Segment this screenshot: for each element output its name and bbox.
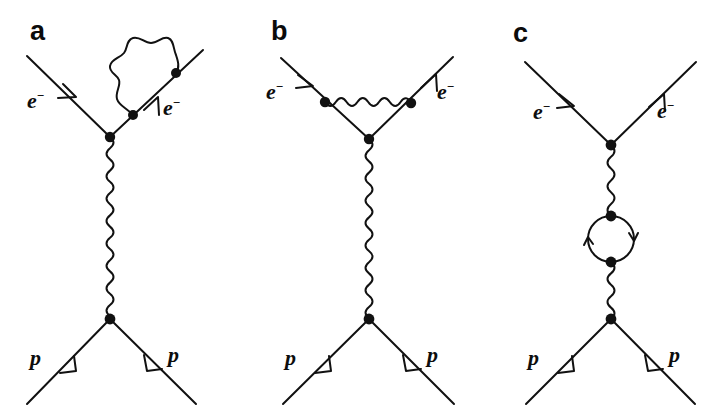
label-e-charge-c: − (543, 99, 550, 114)
incoming-electron-arrow-b (296, 75, 313, 88)
label-outgoing-electron-b: e− (437, 80, 454, 103)
label-outgoing-proton-b: p (427, 344, 438, 366)
panel-c: c (481, 0, 722, 419)
vertex-loop-top-c (606, 211, 617, 222)
outgoing-proton-line-a (110, 319, 196, 404)
vertex-photon-left-b (320, 97, 330, 107)
outgoing-proton-line-b (369, 319, 454, 404)
label-incoming-electron-b: e− (266, 80, 283, 103)
outgoing-proton-arrow-a (144, 355, 162, 371)
label-outgoing-proton-c: p (669, 344, 680, 366)
feynman-diagram-c (481, 0, 722, 419)
figure-canvas: a e− e− (0, 0, 722, 419)
outgoing-electron-arrow-a (144, 97, 159, 115)
exchanged-photon-a (107, 137, 114, 316)
label-e-out-text-b: e (437, 79, 447, 104)
panel-a: a e− e− (0, 0, 241, 419)
label-e-charge-a: − (37, 88, 44, 103)
label-e-text-b: e (266, 79, 276, 104)
outgoing-electron-arrow-b (421, 74, 437, 91)
label-incoming-proton-a: p (30, 347, 41, 369)
lower-photon-c (608, 262, 615, 319)
label-outgoing-proton-a: p (168, 344, 179, 366)
label-e-out-charge-a: − (173, 95, 180, 110)
label-e-out-text-c: e (657, 98, 667, 123)
vertex-electron-photon-b (364, 134, 374, 144)
vertex-correction-photon-b (325, 98, 411, 106)
label-incoming-electron-a: e− (27, 89, 44, 112)
vertex-electron-photon-a (105, 132, 115, 142)
vertex-proton-photon-c (606, 314, 617, 325)
label-e-out-charge-b: − (447, 79, 454, 94)
vertex-photon-right-b (406, 98, 416, 108)
feynman-diagram-b (241, 0, 482, 419)
label-e-out-charge-c: − (667, 98, 674, 113)
vertex-electron-photon-c (606, 140, 617, 151)
label-incoming-electron-c: e− (533, 100, 550, 123)
exchanged-photon-b (366, 139, 373, 318)
vertex-self-energy-upper-a (171, 68, 181, 78)
label-e-charge-b: − (276, 79, 283, 94)
label-outgoing-electron-c: e− (657, 99, 674, 122)
label-e-out-text-a: e (163, 95, 173, 120)
vertex-proton-photon-a (105, 314, 116, 325)
outgoing-proton-line-c (611, 319, 695, 404)
label-incoming-proton-c: p (528, 347, 539, 369)
outgoing-electron-line-a (110, 50, 203, 137)
vacuum-polarization-loop-c (588, 216, 634, 262)
upper-photon-c (608, 145, 615, 216)
label-e-text-a: e (27, 88, 37, 113)
label-outgoing-electron-a: e− (163, 96, 180, 119)
vertex-self-energy-lower-a (128, 110, 138, 120)
label-incoming-proton-b: p (285, 347, 296, 369)
incoming-proton-arrow-a (60, 356, 76, 373)
panel-b: b e− e− p p (241, 0, 482, 419)
vertex-proton-photon-b (364, 314, 375, 325)
vertex-loop-bottom-c (606, 257, 617, 268)
label-e-text-c: e (533, 99, 543, 124)
